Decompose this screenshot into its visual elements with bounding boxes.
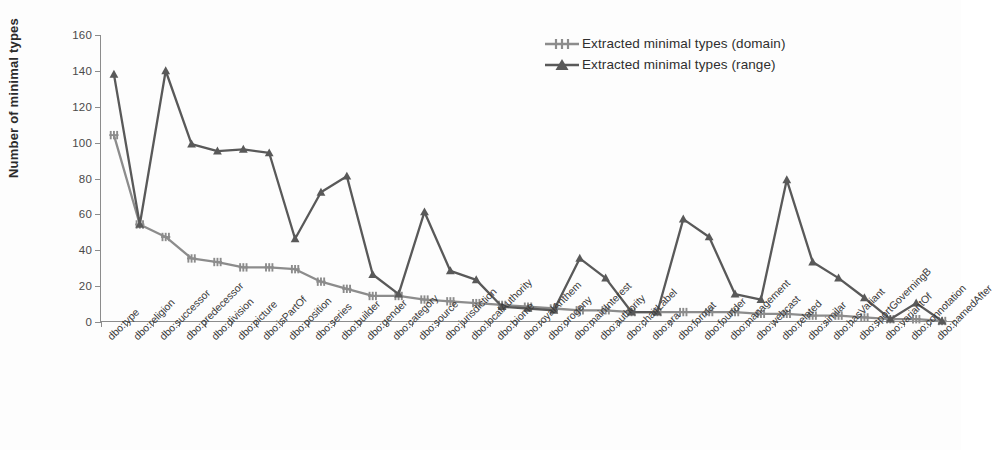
x-axis-tick xyxy=(723,321,724,327)
x-axis-tick xyxy=(904,321,905,327)
data-point xyxy=(601,306,610,314)
x-axis-tick xyxy=(386,321,387,327)
data-point xyxy=(782,175,791,183)
legend-label-domain: Extracted minimal types (domain) xyxy=(582,36,786,51)
x-axis-tick xyxy=(412,321,413,327)
y-axis-tick xyxy=(95,71,101,72)
data-point xyxy=(834,311,843,319)
x-axis-tick xyxy=(826,321,827,327)
data-point xyxy=(187,139,196,147)
data-point xyxy=(239,263,248,271)
y-axis-tick xyxy=(95,214,101,215)
x-axis-tick xyxy=(801,321,802,327)
star-marker-icon xyxy=(545,37,579,51)
data-point xyxy=(161,233,170,241)
y-axis-tick-label: 120 xyxy=(72,101,92,113)
data-point xyxy=(342,285,351,293)
x-axis-tick xyxy=(593,321,594,327)
x-axis-tick xyxy=(645,321,646,327)
legend-item-range[interactable]: Extracted minimal types (range) xyxy=(545,54,786,75)
x-axis-tick xyxy=(490,321,491,327)
data-point xyxy=(808,257,817,265)
x-axis-tick xyxy=(282,321,283,327)
data-point xyxy=(368,270,377,278)
legend-item-domain[interactable]: Extracted minimal types (domain) xyxy=(545,33,786,54)
y-axis-tick-label: 140 xyxy=(72,65,92,77)
data-point xyxy=(109,131,118,139)
y-axis-tick-label: 0 xyxy=(85,316,92,328)
data-point xyxy=(161,66,170,74)
y-axis-tick xyxy=(95,286,101,287)
x-axis-tick xyxy=(749,321,750,327)
series-lines xyxy=(101,35,955,321)
x-axis-tick xyxy=(930,321,931,327)
x-axis-tick xyxy=(360,321,361,327)
data-point xyxy=(213,258,222,266)
series-line xyxy=(114,71,942,321)
x-axis-tick xyxy=(438,321,439,327)
y-axis-tick-label: 20 xyxy=(79,280,92,292)
data-point xyxy=(575,306,584,314)
x-axis-tick xyxy=(956,321,957,327)
data-point xyxy=(187,254,196,262)
chart-legend: Extracted minimal types (domain) Extract… xyxy=(545,33,786,75)
x-axis-tick xyxy=(308,321,309,327)
x-axis-tick xyxy=(852,321,853,327)
x-axis-tick xyxy=(205,321,206,327)
x-axis-tick xyxy=(671,321,672,327)
x-axis-tick xyxy=(619,321,620,327)
data-point xyxy=(782,310,791,318)
x-axis-tick xyxy=(464,321,465,327)
data-point xyxy=(756,310,765,318)
x-axis-tick xyxy=(179,321,180,327)
y-axis-tick xyxy=(95,179,101,180)
legend-label-range: Extracted minimal types (range) xyxy=(582,57,776,72)
data-point xyxy=(420,295,429,303)
y-axis-tick xyxy=(95,35,101,36)
y-axis-title: Number of minimal types xyxy=(6,18,21,178)
x-axis-tick xyxy=(516,321,517,327)
x-axis-tick xyxy=(153,321,154,327)
y-axis-tick-label: 80 xyxy=(79,173,92,185)
x-axis-tick xyxy=(231,321,232,327)
y-axis-tick xyxy=(95,250,101,251)
data-point xyxy=(912,315,921,323)
x-axis-tick xyxy=(697,321,698,327)
data-point xyxy=(808,311,817,319)
y-axis-tick-label: 60 xyxy=(79,208,92,220)
x-axis-tick xyxy=(101,321,102,327)
y-axis-tick-label: 160 xyxy=(72,29,92,41)
x-axis-tick xyxy=(878,321,879,327)
y-axis-tick xyxy=(95,143,101,144)
data-point xyxy=(342,172,351,180)
x-axis-tick xyxy=(541,321,542,327)
data-point xyxy=(446,297,455,305)
triangle-marker-icon xyxy=(545,58,579,72)
y-axis-tick xyxy=(95,107,101,108)
y-axis-tick-label: 100 xyxy=(72,137,92,149)
data-point xyxy=(110,70,119,78)
data-point xyxy=(316,277,325,285)
data-point xyxy=(290,265,299,273)
x-axis-tick xyxy=(567,321,568,327)
data-point xyxy=(860,313,869,321)
plot-area: 020406080100120140160 xyxy=(100,35,955,322)
data-point xyxy=(446,266,455,274)
series-line xyxy=(114,135,942,321)
data-point xyxy=(912,299,921,307)
y-axis-tick-label: 40 xyxy=(79,244,92,256)
data-point xyxy=(679,308,688,316)
data-point xyxy=(730,308,739,316)
x-axis-tick xyxy=(334,321,335,327)
data-point xyxy=(575,254,584,262)
data-point xyxy=(420,207,429,215)
x-axis-tick xyxy=(256,321,257,327)
data-point xyxy=(705,308,714,316)
data-point xyxy=(368,292,377,300)
x-axis-tick xyxy=(127,321,128,327)
data-point xyxy=(472,299,481,307)
x-axis-tick xyxy=(775,321,776,327)
data-point xyxy=(265,263,274,271)
data-point xyxy=(731,290,740,298)
